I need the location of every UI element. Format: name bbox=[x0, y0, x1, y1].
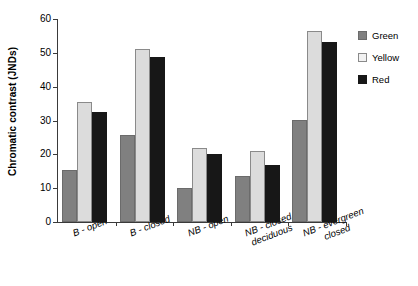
y-tick-mark bbox=[53, 188, 57, 189]
legend-item-red[interactable]: Red bbox=[358, 68, 416, 90]
bar-yellow bbox=[135, 49, 150, 222]
y-tick-label: 30 bbox=[40, 116, 51, 126]
plot-area: 0102030405060 bbox=[58, 19, 346, 222]
legend-label: Yellow bbox=[372, 52, 399, 63]
bar-red bbox=[150, 57, 165, 222]
bar-red bbox=[207, 154, 222, 222]
bar-green bbox=[292, 120, 307, 223]
y-tick-label: 40 bbox=[40, 82, 51, 92]
bar-group bbox=[177, 19, 222, 222]
y-axis-title-text: Chromatic contrast (JNDs) bbox=[8, 46, 19, 175]
legend-label: Green bbox=[372, 30, 398, 41]
bar-yellow bbox=[77, 102, 92, 222]
y-tick-label: 20 bbox=[40, 149, 51, 159]
bar-group bbox=[292, 19, 337, 222]
y-tick-mark bbox=[53, 87, 57, 88]
bar-green bbox=[62, 170, 77, 222]
legend-item-green[interactable]: Green bbox=[358, 24, 416, 46]
bar-yellow bbox=[192, 148, 207, 222]
bar-red bbox=[322, 42, 337, 222]
bar-group bbox=[235, 19, 280, 222]
bar-red bbox=[265, 165, 280, 222]
legend-swatch-icon bbox=[358, 31, 367, 40]
y-axis-title: Chromatic contrast (JNDs) bbox=[2, 0, 24, 222]
bar-green bbox=[120, 135, 135, 222]
y-tick-label: 60 bbox=[40, 14, 51, 24]
y-tick-mark bbox=[53, 19, 57, 20]
y-axis-line bbox=[57, 19, 58, 223]
bar-chart: Chromatic contrast (JNDs) 0102030405060 … bbox=[0, 0, 418, 286]
bar-group bbox=[62, 19, 107, 222]
bar-yellow bbox=[307, 31, 322, 222]
legend-swatch-icon bbox=[358, 53, 367, 62]
bar-green bbox=[177, 188, 192, 222]
y-tick-label: 10 bbox=[40, 183, 51, 193]
y-tick-label: 0 bbox=[45, 217, 51, 227]
legend-label: Red bbox=[372, 74, 389, 85]
legend-swatch-icon bbox=[358, 75, 367, 84]
x-axis-labels: B - openB - closedNB - openNB - closedde… bbox=[58, 222, 358, 286]
y-tick-label: 50 bbox=[40, 48, 51, 58]
bar-yellow bbox=[250, 151, 265, 222]
chart-legend: GreenYellowRed bbox=[358, 24, 416, 90]
bar-green bbox=[235, 176, 250, 222]
y-tick-mark bbox=[53, 222, 57, 223]
y-tick-mark bbox=[53, 154, 57, 155]
legend-item-yellow[interactable]: Yellow bbox=[358, 46, 416, 68]
y-tick-mark bbox=[53, 53, 57, 54]
y-tick-mark bbox=[53, 121, 57, 122]
bar-group bbox=[120, 19, 165, 222]
bar-red bbox=[92, 112, 107, 222]
